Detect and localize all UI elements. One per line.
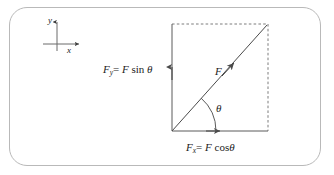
resultant-force-label: F bbox=[215, 66, 222, 77]
force-x-function: cos bbox=[215, 141, 230, 153]
force-y-magnitude: F bbox=[122, 63, 129, 75]
force-x-label: Fx= F cosθ bbox=[186, 142, 235, 155]
figure-canvas: y x Fy= F sin θ Fx= F cosθ F θ bbox=[0, 0, 334, 175]
force-y-function: sin bbox=[132, 63, 145, 75]
angle-arc bbox=[201, 98, 216, 131]
force-x-symbol: F bbox=[186, 141, 193, 153]
axis-key-label-y: y bbox=[48, 16, 52, 25]
angle-label: θ bbox=[216, 103, 221, 114]
axis-key bbox=[43, 22, 79, 51]
force-y-equals: = bbox=[113, 63, 119, 75]
force-y-label: Fy= F sin θ bbox=[103, 64, 153, 77]
resultant-force-vector bbox=[172, 25, 267, 131]
force-decomposition-drawing bbox=[0, 0, 334, 175]
force-y-symbol: F bbox=[103, 63, 110, 75]
force-y-angle: θ bbox=[147, 63, 152, 75]
force-x-equals: = bbox=[196, 141, 202, 153]
axis-key-label-x: x bbox=[67, 46, 71, 55]
resultant-force-arrowhead bbox=[222, 63, 234, 76]
force-x-angle: θ bbox=[229, 141, 234, 153]
force-x-magnitude: F bbox=[205, 141, 212, 153]
